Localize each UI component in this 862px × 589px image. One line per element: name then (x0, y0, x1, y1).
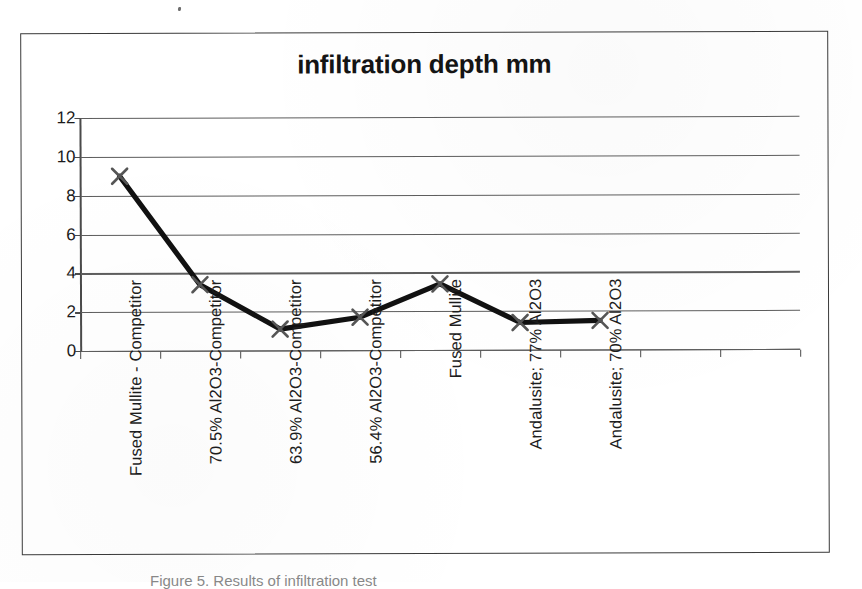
chart-frame: infiltration depth mm 024681012 Fused Mu… (20, 31, 830, 556)
y-tick-label: 6 (36, 225, 76, 245)
x-tick-mark (800, 350, 801, 357)
y-tick-label: 2 (36, 302, 76, 322)
y-tick-label: 0 (36, 341, 76, 361)
x-category-label: 70.5% Al2O3-Competitor (206, 280, 226, 465)
x-category-label: Fused Mullite (446, 279, 465, 378)
chart-title: infiltration depth mm (21, 48, 827, 82)
x-category-label: Andalusite; 70% Al2O3 (606, 278, 626, 449)
figure-caption: Figure 5. Results of infiltration test (150, 572, 377, 589)
y-tick-label: 12 (35, 108, 75, 128)
y-tick-label: 8 (36, 186, 76, 206)
x-category-label: 63.9% Al2O3-Competitor (286, 279, 306, 464)
x-category-label: Fused Mullite - Competitor (126, 280, 146, 476)
y-tick-label: 4 (36, 263, 76, 283)
x-category-label: 56.4% Al2O3-Competitor (366, 279, 386, 464)
x-category-label: Andalusite; 77% Al2O3 (526, 279, 546, 450)
data-point-marker (112, 169, 127, 184)
x-axis-category-labels: Fused Mullite - Competitor70.5% Al2O3-Co… (80, 278, 801, 540)
scan-speck (178, 7, 182, 12)
y-tick-label: 10 (36, 147, 76, 167)
